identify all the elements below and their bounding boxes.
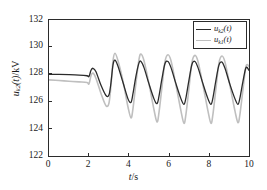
xtick-mark — [48, 153, 49, 157]
ytick-label: 126 — [29, 96, 43, 106]
ytick-mark — [48, 101, 52, 102]
legend-swatch-uk1 — [196, 40, 211, 41]
xtick-mark — [88, 153, 89, 157]
ytick-mark — [48, 128, 52, 129]
legend-label-uk2-arg: (t) — [224, 23, 232, 33]
legend-label-uk1: uk1(t) — [214, 35, 232, 46]
xtick-label: 6 — [166, 160, 171, 170]
xtick-mark — [169, 153, 170, 157]
series-layer — [49, 53, 249, 123]
xtick-label: 8 — [206, 160, 211, 170]
legend-entry-uk2: uk2(t) — [196, 24, 243, 35]
legend-label-uk1-arg: (t) — [224, 34, 232, 44]
xtick-mark — [209, 153, 210, 157]
x-axis-label: t/s — [0, 172, 267, 182]
xtick-label: 0 — [46, 160, 51, 170]
chart-figure: 122 124 126 128 130 132 0 2 4 6 8 10 t/s… — [0, 0, 267, 190]
xtick-label: 4 — [126, 160, 131, 170]
ytick-label: 124 — [29, 124, 43, 134]
y-axis-label-var: u — [10, 91, 21, 96]
legend: uk2(t) uk1(t) — [193, 21, 247, 49]
xtick-mark — [249, 153, 250, 157]
x-axis-label-unit: /s — [132, 171, 139, 182]
ytick-mark — [48, 19, 52, 20]
y-axis-label-arg: (t) — [10, 76, 21, 85]
y-axis-label: uk2(t)/kV — [11, 28, 24, 128]
y-axis-label-subscript: k2 — [14, 85, 21, 91]
ytick-label: 128 — [29, 68, 43, 78]
xtick-mark — [128, 153, 129, 157]
ytick-label: 130 — [29, 41, 43, 51]
y-axis-label-unit: /kV — [10, 61, 21, 76]
xtick-label: 10 — [244, 160, 254, 170]
legend-swatch-uk2 — [196, 29, 211, 30]
legend-entry-uk1: uk1(t) — [196, 35, 243, 46]
ytick-mark — [48, 73, 52, 74]
ytick-mark — [48, 46, 52, 47]
xtick-label: 2 — [86, 160, 91, 170]
ytick-label: 122 — [29, 151, 43, 161]
ytick-label: 132 — [29, 15, 43, 25]
